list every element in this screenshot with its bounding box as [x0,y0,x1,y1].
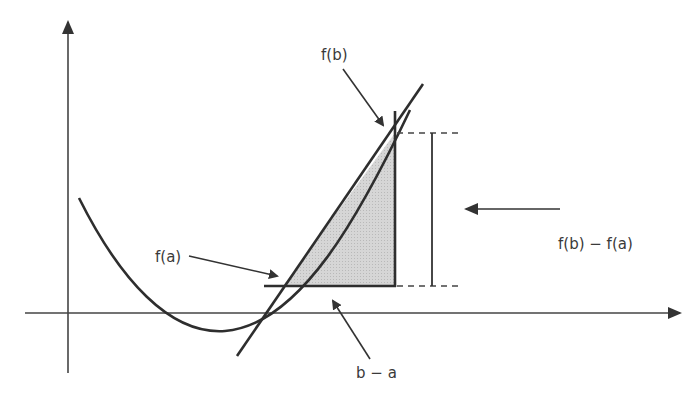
label-f-a: f(a) [155,248,181,266]
arrow-difference-x [333,301,370,359]
arrow-fa [189,256,277,276]
arrow-fb [343,69,383,125]
label-difference-y: f(b) − f(a) [558,235,633,253]
mvt-diagram: f(b) f(a) f(b) − f(a) b − a [0,0,692,405]
label-difference-x: b − a [356,364,397,382]
label-f-b: f(b) [321,46,348,64]
